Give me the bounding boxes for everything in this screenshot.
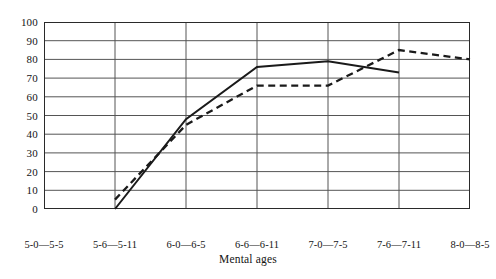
x-tick-label: 8-0—8-5 xyxy=(450,238,489,251)
y-tick-label: 80 xyxy=(0,54,38,65)
y-axis-tick-labels: 1009080706050403020100 xyxy=(0,22,38,209)
x-tick-label: 6-6—6-11 xyxy=(235,238,279,251)
x-tick-label: 7-0—7-5 xyxy=(308,238,347,251)
y-tick-label: 10 xyxy=(0,185,38,196)
x-tick-label: 6-0—6-5 xyxy=(166,238,205,251)
y-tick-label: 0 xyxy=(0,204,38,215)
chart-data-lines xyxy=(44,22,470,209)
y-tick-label: 30 xyxy=(0,147,38,158)
y-tick-label: 40 xyxy=(0,129,38,140)
chart-container: 1009080706050403020100 5-0—5-55-6—5-116-… xyxy=(0,0,496,279)
y-tick-label: 50 xyxy=(0,110,38,121)
y-tick-label: 100 xyxy=(0,17,38,28)
x-tick-label: 7-6—7-11 xyxy=(377,238,421,251)
y-tick-label: 90 xyxy=(0,35,38,46)
x-tick-label: 5-0—5-5 xyxy=(24,238,63,251)
y-tick-label: 70 xyxy=(0,73,38,84)
y-tick-label: 60 xyxy=(0,91,38,102)
series-line-dashed xyxy=(115,50,470,200)
x-tick-label: 5-6—5-11 xyxy=(93,238,137,251)
series-line-solid xyxy=(115,61,399,209)
y-tick-label: 20 xyxy=(0,166,38,177)
x-axis-title: Mental ages xyxy=(0,252,496,266)
